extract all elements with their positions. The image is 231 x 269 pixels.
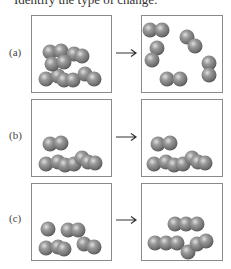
panel-c-before-particles — [39, 222, 102, 257]
arrow-c-icon — [116, 217, 136, 224]
particle-diagram — [0, 0, 231, 269]
panel-b-after-particles — [147, 136, 213, 173]
panel-a-before-particles — [39, 44, 102, 88]
panel-c-after-particles — [148, 217, 214, 260]
panel-a-after-particles — [143, 23, 217, 87]
arrow-b-icon — [116, 134, 136, 141]
arrow-a-icon — [116, 50, 136, 57]
panel-b-before-particles — [39, 136, 103, 173]
